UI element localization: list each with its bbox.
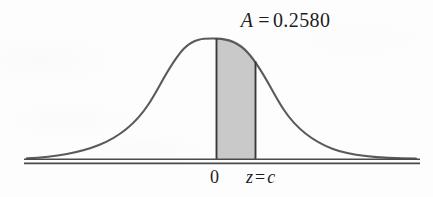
z-symbol: z <box>246 167 253 187</box>
area-annotation: A=0.2580 <box>0 10 433 30</box>
z-equals-sign: = <box>253 167 267 187</box>
c-symbol: c <box>267 167 275 187</box>
origin-axis-label: 0 <box>210 168 219 186</box>
normal-distribution-figure: A=0.2580 0 z=c <box>0 0 433 197</box>
shaded-area-region <box>217 39 256 159</box>
critical-value-axis-label: z=c <box>246 168 275 186</box>
area-equals-sign: = <box>255 9 273 31</box>
area-symbol: A <box>241 9 256 31</box>
area-value: 0.2580 <box>273 9 330 31</box>
